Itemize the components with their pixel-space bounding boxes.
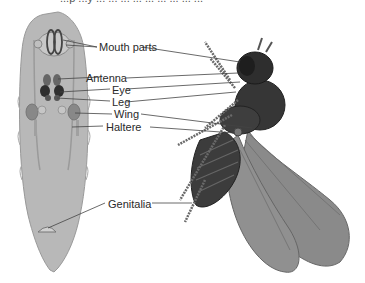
label-mouth-parts: Mouth parts: [99, 41, 157, 53]
fly-figure: [178, 38, 349, 272]
diagram-illustration: [0, 0, 365, 283]
label-haltere: Haltere: [106, 121, 141, 133]
larva-figure: [18, 12, 90, 272]
label-genitalia: Genitalia: [108, 198, 151, 210]
label-leg: Leg: [112, 96, 130, 108]
label-wing: Wing: [114, 108, 139, 120]
label-eye: Eye: [112, 84, 131, 96]
label-antenna: Antenna: [86, 72, 127, 84]
diagram: ...p ...y ... ... ... ... ... ... ... ..…: [0, 0, 365, 283]
